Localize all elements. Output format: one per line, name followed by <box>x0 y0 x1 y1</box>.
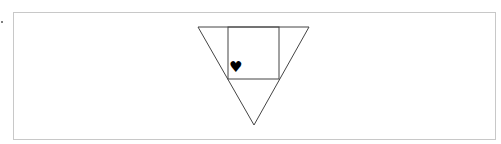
diagram-figure <box>0 0 501 144</box>
heart-icon: ♥ <box>229 60 242 75</box>
inverted-triangle <box>198 27 309 125</box>
